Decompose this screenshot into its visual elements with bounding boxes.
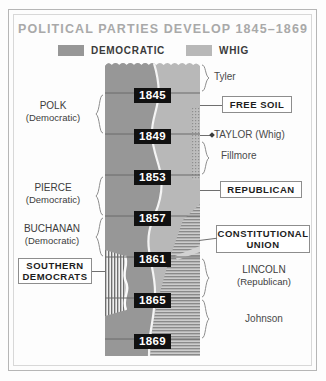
label-johnson-name: Johnson	[214, 313, 314, 325]
label-buchanan-sub: (Democratic)	[10, 235, 94, 247]
year-marker-1861: 1861	[105, 249, 200, 267]
label-pierce-sub: (Democratic)	[14, 194, 92, 206]
callout-constitutional-union-line2: UNION	[246, 239, 279, 250]
brace-pierce	[95, 176, 104, 216]
year-marker-1849: 1849	[105, 126, 200, 144]
label-pierce-name: PIERCE	[14, 182, 92, 194]
legend-item-whig: WHIG	[186, 45, 249, 56]
label-fillmore: Fillmore	[221, 150, 316, 162]
label-polk-sub: (Democratic)	[14, 112, 92, 124]
legend-label-democratic: DEMOCRATIC	[91, 45, 165, 56]
year-marker-1857: 1857	[105, 208, 200, 226]
year-marker-1853: 1853	[105, 167, 200, 185]
label-tyler-name: Tyler	[214, 71, 309, 83]
callout-republican-label: REPUBLICAN	[227, 184, 294, 195]
brace-polk	[95, 94, 104, 134]
label-lincoln: LINCOLN (Republican)	[214, 264, 314, 288]
brace-buchanan	[95, 217, 104, 257]
year-marker-1865: 1865	[105, 290, 200, 308]
callout-southern-democrats: SOUTHERN DEMOCRATS	[18, 258, 92, 284]
leader-republican	[200, 190, 220, 191]
label-taylor-name: TAYLOR (Whig)	[214, 129, 314, 141]
legend-label-whig: WHIG	[219, 45, 249, 56]
year-marker-1845: 1845	[105, 85, 200, 103]
label-tyler: Tyler	[214, 71, 309, 83]
callout-southern-democrats-line1: SOUTHERN	[26, 260, 83, 271]
leader-free-soil	[200, 105, 222, 106]
party-strength-chart: 1845 1849 1853 1857 1861 1865 1869	[105, 60, 200, 356]
brace-lincoln	[201, 258, 210, 298]
brace-johnson	[201, 299, 210, 339]
label-fillmore-name: Fillmore	[221, 150, 316, 162]
legend: DEMOCRATIC WHIG	[0, 45, 326, 61]
brace-tyler	[201, 64, 210, 92]
callout-southern-democrats-line2: DEMOCRATS	[22, 271, 87, 282]
timeline-diagram: POLITICAL PARTIES DEVELOP 1845–1869 DEMO…	[0, 0, 326, 381]
callout-free-soil-label: FREE SOIL	[230, 99, 285, 110]
label-polk: POLK (Democratic)	[14, 100, 92, 124]
callout-constitutional-union: CONSTITUTIONAL UNION	[216, 225, 310, 253]
callout-republican: REPUBLICAN	[220, 181, 302, 198]
label-buchanan-name: BUCHANAN	[10, 223, 94, 235]
callout-constitutional-union-line1: CONSTITUTIONAL	[218, 228, 309, 239]
brace-fillmore	[201, 141, 210, 175]
page-title: POLITICAL PARTIES DEVELOP 1845–1869	[0, 22, 326, 36]
label-buchanan: BUCHANAN (Democratic)	[10, 223, 94, 247]
label-lincoln-sub: (Republican)	[214, 276, 314, 288]
label-johnson: Johnson	[214, 313, 314, 325]
label-pierce: PIERCE (Democratic)	[14, 182, 92, 206]
label-polk-name: POLK	[14, 100, 92, 112]
legend-swatch-democratic	[58, 45, 84, 56]
label-taylor: TAYLOR (Whig)	[214, 129, 314, 141]
callout-free-soil: FREE SOIL	[222, 96, 292, 113]
legend-swatch-whig	[186, 45, 212, 56]
legend-item-democratic: DEMOCRATIC	[58, 45, 165, 56]
label-lincoln-name: LINCOLN	[214, 264, 314, 276]
leader-southern-democrats	[92, 271, 105, 272]
year-marker-1869: 1869	[105, 331, 200, 349]
